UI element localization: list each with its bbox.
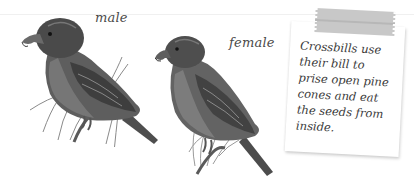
female-crossbill-drawing bbox=[155, 36, 280, 176]
male-label: male bbox=[95, 10, 128, 25]
fact-note: Crossbills use their bill to prise open … bbox=[285, 21, 406, 157]
male-crossbill-drawing bbox=[18, 12, 163, 147]
female-label: female bbox=[229, 35, 275, 50]
fact-note-text: Crossbills use their bill to prise open … bbox=[296, 38, 401, 139]
tape-strip bbox=[314, 8, 395, 36]
crossbill-illustration: male female bbox=[0, 0, 414, 180]
tape-stripe bbox=[315, 19, 395, 25]
